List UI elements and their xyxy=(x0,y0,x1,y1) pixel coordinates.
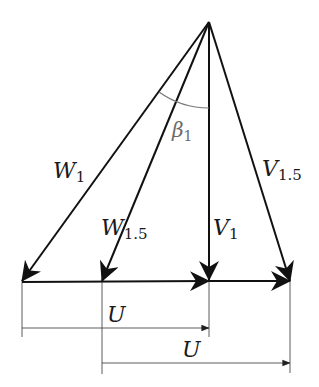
label-w1-5: W1.5 xyxy=(101,215,147,243)
angle-arc-beta1 xyxy=(159,92,209,108)
label-v1: V1 xyxy=(213,215,238,243)
label-w1: W1 xyxy=(53,158,85,186)
vector-w1-5 xyxy=(102,22,209,281)
vector-w1 xyxy=(22,22,209,281)
velocity-triangle-diagram: W1 β1 V1.5 W1.5 V1 U U xyxy=(0,0,319,387)
label-v1-5: V1.5 xyxy=(262,156,302,184)
label-beta1: β1 xyxy=(171,118,192,144)
vector-v1-5 xyxy=(209,22,290,281)
label-u-top: U xyxy=(107,302,127,327)
label-u-bottom: U xyxy=(182,337,202,362)
vector-u-first xyxy=(22,281,209,282)
